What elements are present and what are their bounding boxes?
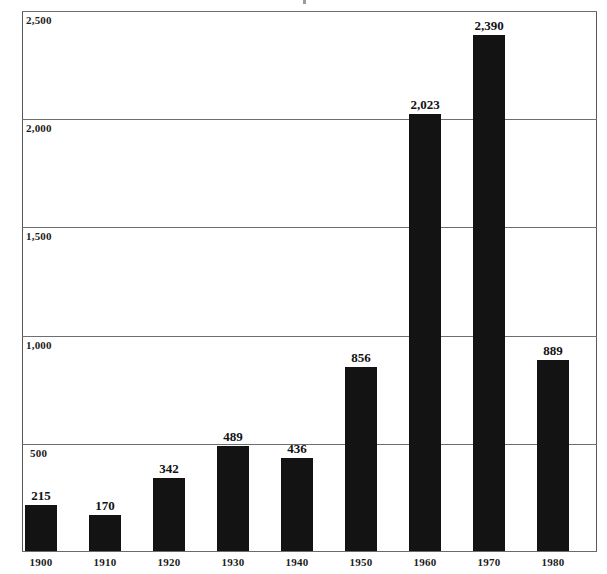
x-tick-label-1980: 1980 — [521, 556, 585, 568]
bar-value-label-1900: 215 — [9, 488, 73, 504]
bars-group: 2151703424894368562,0232,390889 — [0, 0, 607, 574]
x-tick-label-1900: 1900 — [9, 556, 73, 568]
bar-1950 — [345, 367, 377, 552]
x-tick-label-1950: 1950 — [329, 556, 393, 568]
bar-1980 — [537, 360, 569, 552]
bar-value-label-1970: 2,390 — [457, 18, 521, 34]
bar-value-label-1950: 856 — [329, 350, 393, 366]
bar-group-1970: 2,390 — [473, 35, 505, 552]
x-tick-label-1970: 1970 — [457, 556, 521, 568]
bar-chart-figure: 5001,0001,5002,0002,500 2151703424894368… — [0, 0, 607, 574]
bar-1960 — [409, 114, 441, 552]
bar-group-1960: 2,023 — [409, 114, 441, 552]
x-axis-line — [22, 551, 597, 552]
bar-1910 — [89, 515, 121, 552]
bar-value-label-1940: 436 — [265, 441, 329, 457]
bar-group-1980: 889 — [537, 360, 569, 552]
bar-value-label-1980: 889 — [521, 343, 585, 359]
x-tick-label-1940: 1940 — [265, 556, 329, 568]
bar-value-label-1910: 170 — [73, 498, 137, 514]
bar-1940 — [281, 458, 313, 552]
bar-value-label-1920: 342 — [137, 461, 201, 477]
bar-group-1920: 342 — [153, 478, 185, 552]
bar-group-1930: 489 — [217, 446, 249, 552]
bar-group-1910: 170 — [89, 515, 121, 552]
x-tick-label-1920: 1920 — [137, 556, 201, 568]
bar-group-1900: 215 — [25, 505, 57, 552]
bar-1930 — [217, 446, 249, 552]
bar-group-1950: 856 — [345, 367, 377, 552]
bar-group-1940: 436 — [281, 458, 313, 552]
x-tick-label-1930: 1930 — [201, 556, 265, 568]
x-tick-label-1910: 1910 — [73, 556, 137, 568]
bar-1970 — [473, 35, 505, 552]
bar-value-label-1960: 2,023 — [393, 97, 457, 113]
x-tick-label-1960: 1960 — [393, 556, 457, 568]
bar-1900 — [25, 505, 57, 552]
bar-value-label-1930: 489 — [201, 429, 265, 445]
bar-1920 — [153, 478, 185, 552]
